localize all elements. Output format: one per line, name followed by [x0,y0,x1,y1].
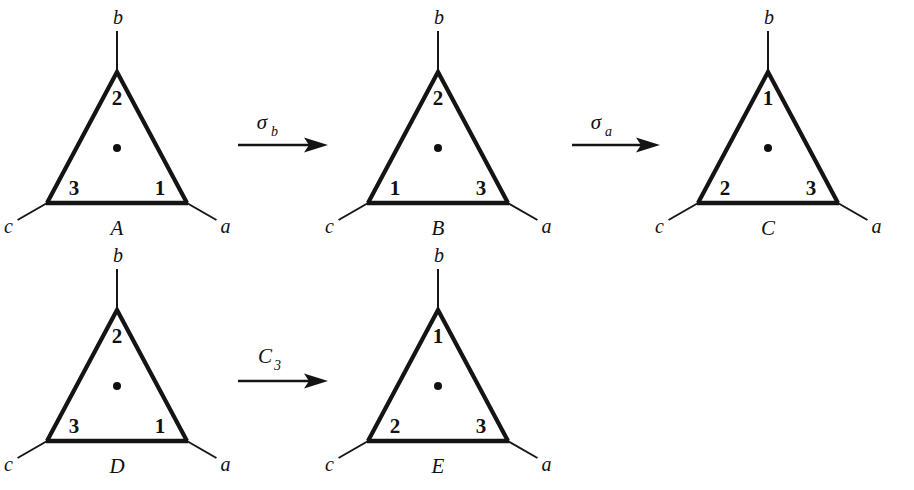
triangle-group-A: 231bcaA [4,6,230,240]
axis-label-a: a [541,453,551,475]
corner-number-bottom-right: 3 [476,176,487,200]
axis-line-c [669,203,699,221]
operation-symbol: σ [257,110,269,134]
axis-line-c [18,441,48,459]
axis-label-a: a [220,453,230,475]
triangle-name-label: C [761,216,776,240]
triangle-group-D: 231bcaD [4,244,230,478]
axis-label-b: b [434,244,444,266]
corner-number-top: 1 [763,86,774,110]
axis-label-a: a [871,215,881,237]
axis-label-c: c [325,215,334,237]
corner-number-top: 2 [433,86,444,110]
triangle-group-B: 213bcaB [325,6,551,240]
corner-number-bottom-right: 1 [155,176,166,200]
axis-line-c [18,203,48,221]
axis-label-c: c [655,215,664,237]
axis-label-c: c [325,453,334,475]
triangle-name-label: B [432,216,445,240]
triangle-name-label: A [109,216,124,240]
operation-subscript: b [271,124,278,139]
triangles-layer: 231bcaA213bcaB123bcaC231bcaD123bcaE [4,6,881,478]
axis-label-c: c [4,215,13,237]
axis-label-b: b [764,6,774,28]
center-dot [113,144,121,152]
corner-number-bottom-right: 3 [806,176,817,200]
axis-line-c [339,203,369,221]
center-dot [434,382,442,390]
operation-subscript: 3 [273,358,281,373]
arrows-layer: σbσaC3 [238,110,660,389]
corner-number-top: 2 [112,86,123,110]
operation-symbol: σ [591,110,603,134]
axis-label-b: b [113,6,123,28]
triangle-group-C: 123bcaC [655,6,881,240]
center-dot [113,382,121,390]
corner-number-bottom-left: 3 [69,176,80,200]
axis-line-a [186,203,216,221]
symmetry-operation-figure: 231bcaA213bcaB123bcaC231bcaD123bcaE σbσa… [0,0,914,490]
figure-canvas: 231bcaA213bcaB123bcaC231bcaD123bcaE σbσa… [0,0,914,490]
operation-arrow-sigma-a: σa [572,110,660,153]
axis-line-a [837,203,867,221]
axis-line-a [507,203,537,221]
axis-line-a [507,441,537,459]
operation-arrow-c3: C3 [238,344,328,389]
axis-label-a: a [541,215,551,237]
corner-number-top: 1 [433,324,444,348]
axis-label-b: b [113,244,123,266]
operation-arrow-sigma-b: σb [238,110,328,153]
corner-number-bottom-right: 1 [155,414,166,438]
corner-number-bottom-right: 3 [476,414,487,438]
corner-number-bottom-left: 2 [390,414,401,438]
operation-subscript: a [605,124,612,139]
corner-number-bottom-left: 1 [390,176,401,200]
axis-label-b: b [434,6,444,28]
triangle-group-E: 123bcaE [325,244,551,478]
center-dot [764,144,772,152]
axis-label-a: a [220,215,230,237]
axis-line-a [186,441,216,459]
axis-label-c: c [4,453,13,475]
corner-number-bottom-left: 3 [69,414,80,438]
corner-number-bottom-left: 2 [720,176,731,200]
triangle-name-label: D [108,454,124,478]
corner-number-top: 2 [112,324,123,348]
triangle-name-label: E [431,454,445,478]
center-dot [434,144,442,152]
operation-symbol: C [258,344,273,368]
axis-line-c [339,441,369,459]
